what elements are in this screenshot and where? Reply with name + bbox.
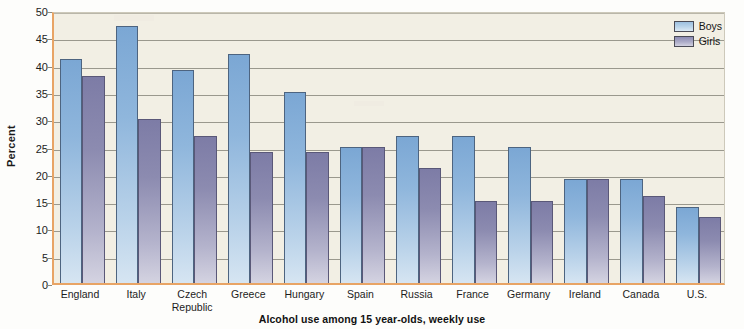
bar-boys-u-s xyxy=(676,207,699,283)
y-axis-tick-mark xyxy=(46,285,52,286)
bar-girls-canada xyxy=(643,196,666,283)
legend-entry-girls: Girls xyxy=(674,35,722,47)
bar-groups xyxy=(54,13,724,283)
bar-girls-france xyxy=(475,201,498,283)
bar-girls-spain xyxy=(362,147,385,284)
plot-area xyxy=(52,12,725,285)
x-axis-label-line: U.S. xyxy=(656,288,738,301)
legend-swatch-girls-icon xyxy=(674,36,694,47)
bar-girls-italy xyxy=(138,119,161,283)
chart-figure: Percent 05101520253035404550 EnglandItal… xyxy=(0,0,744,329)
x-axis-label-u-s: U.S. xyxy=(656,288,738,301)
y-axis-tick-labels: 05101520253035404550 xyxy=(20,0,52,300)
bar-boys-hungary xyxy=(284,92,307,283)
chart-legend: Boys Girls xyxy=(674,20,722,47)
bar-boys-ireland xyxy=(564,179,587,283)
bar-girls-czech-republic xyxy=(194,136,217,283)
bar-boys-england xyxy=(60,59,83,283)
chart-caption: Alcohol use among 15 year-olds, weekly u… xyxy=(0,313,744,325)
bar-boys-russia xyxy=(396,136,419,283)
bar-girls-germany xyxy=(531,201,554,283)
bar-girls-ireland xyxy=(587,179,610,283)
bar-boys-canada xyxy=(620,179,643,283)
bar-girls-greece xyxy=(250,152,273,283)
bar-boys-greece xyxy=(228,54,251,283)
legend-swatch-boys-icon xyxy=(674,21,694,32)
bar-boys-france xyxy=(452,136,475,283)
bar-girls-russia xyxy=(419,168,442,283)
legend-entry-boys: Boys xyxy=(674,20,722,32)
bar-boys-spain xyxy=(340,147,363,284)
bar-boys-germany xyxy=(508,147,531,284)
x-axis-label-line: Republic xyxy=(151,301,233,314)
bar-girls-england xyxy=(82,76,105,283)
bar-girls-hungary xyxy=(306,152,329,283)
y-axis-title: Percent xyxy=(2,96,20,196)
bar-boys-czech-republic xyxy=(172,70,195,283)
legend-label-girls: Girls xyxy=(699,35,721,47)
legend-label-boys: Boys xyxy=(699,20,722,32)
bar-boys-italy xyxy=(116,26,139,283)
bar-girls-u-s xyxy=(699,217,722,283)
